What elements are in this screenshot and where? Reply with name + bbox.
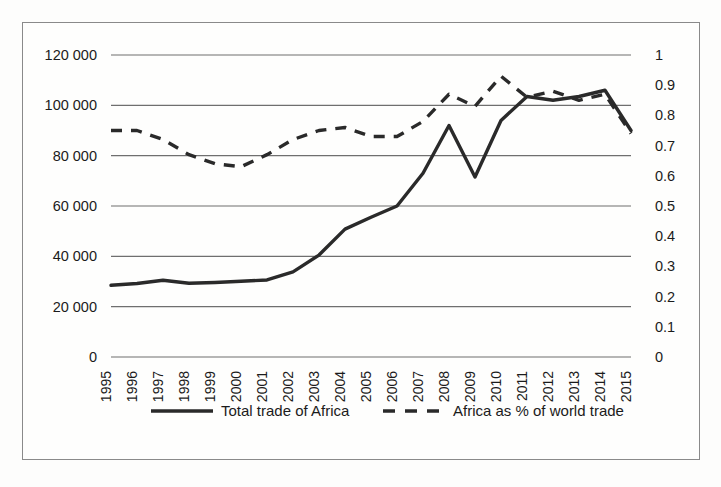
right-axis-tick-label: 0.2 [655,289,675,305]
legend-label: Africa as % of world trade [453,402,624,419]
line-chart: 020 00040 00060 00080 000100 000120 000 … [23,23,701,461]
right-axis-tick-label: 0.8 [655,107,675,123]
x-axis-tick-label: 2002 [280,371,296,402]
x-axis-tick-label: 2009 [462,371,478,402]
right-axis-tick-label: 0.9 [655,77,675,93]
x-axis-tick-label: 2011 [514,371,530,401]
x-axis-tick-label: 2003 [306,371,322,402]
x-axis-tick-label: 1997 [150,371,166,402]
series-line-2 [111,76,631,167]
right-axis-tick-label: 0.7 [655,138,675,154]
right-axis-tick-label: 0.3 [655,258,675,274]
x-axis-tick-label: 2010 [488,371,504,402]
x-axis-tick-label: 2015 [618,371,634,402]
x-axis-tick-label: 2005 [358,371,374,402]
chart-frame: 020 00040 00060 00080 000100 000120 000 … [22,22,700,460]
figure-canvas: 020 00040 00060 00080 000100 000120 000 … [0,0,721,487]
x-axis-tick-label: 2008 [436,371,452,402]
left-axis-tick-label: 60 000 [53,198,97,214]
left-axis-tick-label: 80 000 [53,148,97,164]
x-axis-tick-label: 2012 [540,371,556,402]
legend-label: Total trade of Africa [221,402,350,419]
x-axis-tick-label: 2014 [592,371,608,402]
left-axis-tick-label: 100 000 [45,97,97,113]
left-axis-tick-labels: 020 00040 00060 00080 000100 000120 000 [45,47,97,365]
x-axis-tick-labels: 1995199619971998199920002001200220032004… [98,371,634,402]
right-axis-tick-label: 0.6 [655,168,675,184]
x-axis-tick-label: 2004 [332,371,348,402]
x-axis-tick-label: 1996 [124,371,140,402]
right-axis-tick-label: 1 [655,47,663,63]
right-axis-tick-label: 0.5 [655,198,675,214]
x-axis-tick-label: 2013 [566,371,582,402]
x-axis-tick-label: 1999 [202,371,218,402]
x-axis-tick-label: 2007 [410,371,426,402]
x-axis-tick-label: 2001 [254,371,270,402]
x-axis-tick-label: 1995 [98,371,114,402]
right-axis-tick-label: 0 [655,349,663,365]
left-axis-tick-label: 120 000 [45,47,97,63]
right-axis-tick-label: 0.1 [655,319,675,335]
left-axis-tick-label: 20 000 [53,299,97,315]
chart-legend: Total trade of AfricaAfrica as % of worl… [151,402,624,419]
left-axis-tick-label: 40 000 [53,248,97,264]
left-axis-tick-label: 0 [89,349,97,365]
x-axis-tick-label: 1998 [176,371,192,402]
x-axis-tick-label: 2000 [228,371,244,402]
right-axis-tick-labels: 00.10.20.30.40.50.60.70.80.91 [655,47,675,365]
right-axis-tick-label: 0.4 [655,228,675,244]
data-series-group [111,76,631,285]
x-axis-tick-label: 2006 [384,371,400,402]
